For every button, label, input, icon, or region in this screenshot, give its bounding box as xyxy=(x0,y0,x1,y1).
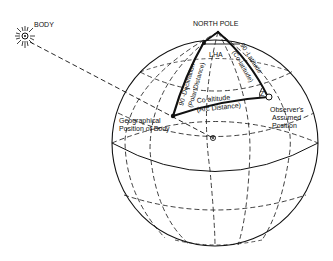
latitude-line-lower xyxy=(124,195,306,210)
north-pole-point xyxy=(217,31,219,33)
latitude-line-upper xyxy=(140,72,292,91)
geo-position-label-line2: Position of Body xyxy=(119,125,170,133)
celestial-body-icon xyxy=(15,26,35,48)
navigation-triangle-diagram: BODY NORTH POLE LHA 90 -Declination (Pol… xyxy=(0,0,333,261)
observer-label-line3: Position xyxy=(272,122,297,129)
meridian-1 xyxy=(150,32,218,245)
body-label: BODY xyxy=(34,21,54,28)
geographical-position-point xyxy=(171,114,175,118)
earth-center-dot xyxy=(212,137,214,139)
observer-position-point xyxy=(266,94,272,100)
observer-label-line1: Observer's xyxy=(270,106,304,113)
lha-label: LHA xyxy=(209,51,223,58)
meridian-5 xyxy=(125,32,218,238)
geo-position-label-line1: Geographical xyxy=(119,117,161,125)
observer-label-line2: Assumed xyxy=(272,114,301,121)
pole-vertex-marker xyxy=(202,41,206,45)
north-pole-label: NORTH POLE xyxy=(193,20,239,27)
angle-z-label: Z xyxy=(260,90,265,97)
meridian-2 xyxy=(206,32,218,246)
